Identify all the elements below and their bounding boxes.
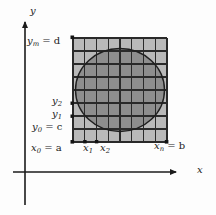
y-axis-label: y bbox=[30, 6, 36, 16]
label-y-one: y1 bbox=[52, 109, 62, 120]
label-x-n-eq: = b bbox=[164, 140, 185, 151]
label-x-zero-eq: = a bbox=[41, 142, 62, 153]
tick-marker-y1 bbox=[71, 115, 74, 118]
tick-marker-x2 bbox=[95, 140, 98, 143]
label-y-zero-eq: = c bbox=[42, 121, 62, 132]
corner-marker-top-left bbox=[71, 36, 75, 40]
label-x-zero: x0 = a bbox=[31, 143, 62, 154]
label-y-one-sub: 1 bbox=[58, 113, 62, 121]
tick-marker-y2 bbox=[71, 102, 74, 105]
riemann-grid-figure bbox=[0, 0, 216, 215]
label-x-two-sub: 2 bbox=[106, 147, 110, 155]
label-y-two-sub: 2 bbox=[58, 100, 62, 108]
label-x-one: x1 bbox=[83, 143, 93, 154]
label-x-n: xn = b bbox=[154, 141, 185, 152]
label-y-max-eq: = d bbox=[39, 35, 60, 46]
label-y-max: ym = d bbox=[27, 36, 60, 47]
label-x-one-sub: 1 bbox=[89, 147, 93, 155]
label-x-two: x2 bbox=[100, 143, 110, 154]
label-y-two: y2 bbox=[52, 96, 62, 107]
x-axis-label: x bbox=[197, 165, 203, 175]
label-y-zero: y0 = c bbox=[32, 122, 62, 133]
corner-marker-bottom-left bbox=[71, 140, 75, 144]
